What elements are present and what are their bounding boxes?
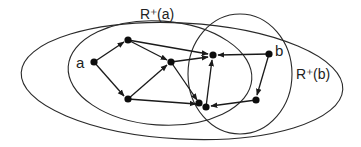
node-b (265, 50, 272, 57)
edge-a-n2 (94, 62, 124, 96)
node-n5 (252, 96, 259, 103)
node-n3 (167, 58, 174, 65)
reach-a-label: R⁺(a) (140, 6, 174, 22)
edge-n3-n6 (171, 62, 197, 100)
node-a (90, 58, 97, 65)
edge-b-n4 (218, 54, 269, 55)
node-n4 (209, 51, 216, 58)
node-n6 (195, 99, 202, 106)
edge-n7-n4 (206, 60, 212, 107)
edge-a-n1 (94, 42, 124, 62)
edge-n2-n3 (128, 65, 167, 99)
node-a-label: a (76, 54, 85, 71)
reach-b-region-ellipse (188, 14, 292, 134)
reach-b-label: R⁺(b) (296, 66, 330, 82)
edge-n5-n7 (211, 100, 256, 106)
reach-a-region-ellipse (65, 15, 256, 132)
reachability-diagram: R⁺(a) R⁺(b) a b (0, 0, 361, 147)
node-n7 (202, 103, 209, 110)
node-n2 (124, 95, 131, 102)
edge-b-n5 (257, 54, 269, 95)
node-b-label: b (275, 42, 283, 59)
edge-n2-n7 (128, 99, 196, 104)
node-n1 (124, 36, 131, 43)
